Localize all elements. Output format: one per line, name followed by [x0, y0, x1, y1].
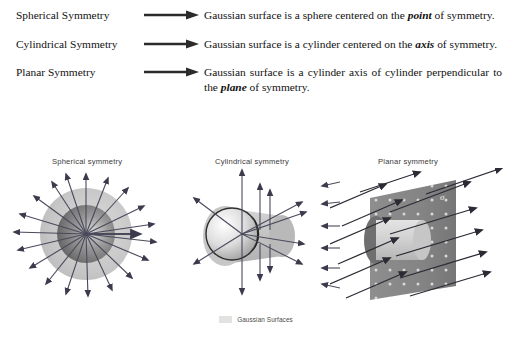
- legend: Gaussian Surfaces: [0, 316, 512, 323]
- rule-text-before: Gaussian surface is a sphere centered on…: [204, 9, 408, 21]
- rule-text-spherical: Gaussian surface is a sphere centered on…: [204, 8, 512, 23]
- rule-row: Cylindrical Symmetry Gaussian surface is…: [0, 37, 512, 52]
- spherical-symmetry-diagram: [8, 168, 188, 298]
- figure-label-spherical: Spherical symmetry: [52, 157, 122, 166]
- rule-text-after: of symmetry.: [432, 9, 495, 21]
- right-arrow-icon: [142, 8, 204, 22]
- rule-label-planar: Planar Symmetry: [0, 65, 142, 79]
- figures-area: Spherical symmetry Cylindrical symmetry …: [0, 150, 512, 339]
- gaussian-cylinder: [364, 216, 431, 264]
- rule-row: Planar Symmetry Gaussian surface is a cy…: [0, 65, 512, 94]
- rule-text-after: of symmetry.: [434, 38, 497, 50]
- rule-text-emphasis: plane: [221, 81, 247, 93]
- symmetry-rules-table: Spherical Symmetry Gaussian surface is a…: [0, 8, 512, 94]
- rule-label-cylindrical: Cylindrical Symmetry: [0, 37, 142, 51]
- rule-text-after: of symmetry.: [247, 81, 310, 93]
- rule-row: Spherical Symmetry Gaussian surface is a…: [0, 8, 512, 23]
- right-arrow-icon: [142, 37, 204, 51]
- legend-label: Gaussian Surfaces: [237, 316, 293, 323]
- figure-label-planar: Planar symmetry: [378, 157, 438, 166]
- right-arrow-icon: [142, 65, 204, 79]
- rule-label-spherical: Spherical Symmetry: [0, 8, 142, 22]
- sigma-annotation: σ: [440, 192, 445, 202]
- legend-swatch-gaussian-surfaces: [219, 316, 232, 323]
- rule-text-planar: Gaussian surface is a cylinder axis of c…: [204, 65, 512, 94]
- rule-text-emphasis: point: [408, 9, 432, 21]
- cylindrical-symmetry-diagram: [190, 168, 340, 298]
- figure-label-cylindrical: Cylindrical symmetry: [215, 157, 289, 166]
- planar-symmetry-diagram: σ: [330, 168, 508, 300]
- rule-text-cylindrical: Gaussian surface is a cylinder centered …: [204, 37, 512, 52]
- rule-text-emphasis: axis: [415, 38, 434, 50]
- rule-text-before: Gaussian surface is a cylinder centered …: [204, 38, 415, 50]
